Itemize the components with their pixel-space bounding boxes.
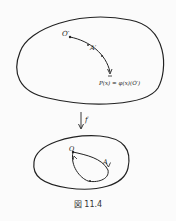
path-tick [101,55,103,57]
diagram: O′ A′ P(x) = φ(x)(O′) f O A 図 11.4 [0,0,176,221]
label-p-x: P(x) = φ(x)(O′) [98,80,140,87]
figure-caption: 図 11.4 [74,200,102,209]
label-f: f [84,116,89,124]
path-a-prime [70,37,110,72]
loop-a [72,152,108,182]
label-o-prime: O′ [62,30,70,38]
label-a: A [102,158,108,166]
label-a-prime: A′ [89,44,97,52]
bottom-region-outline [34,136,129,189]
top-region-outline [17,17,164,104]
loop-arrow-icon [73,156,77,160]
path-tick [87,44,89,46]
label-o: O [69,145,75,153]
loop-tick [89,180,91,182]
